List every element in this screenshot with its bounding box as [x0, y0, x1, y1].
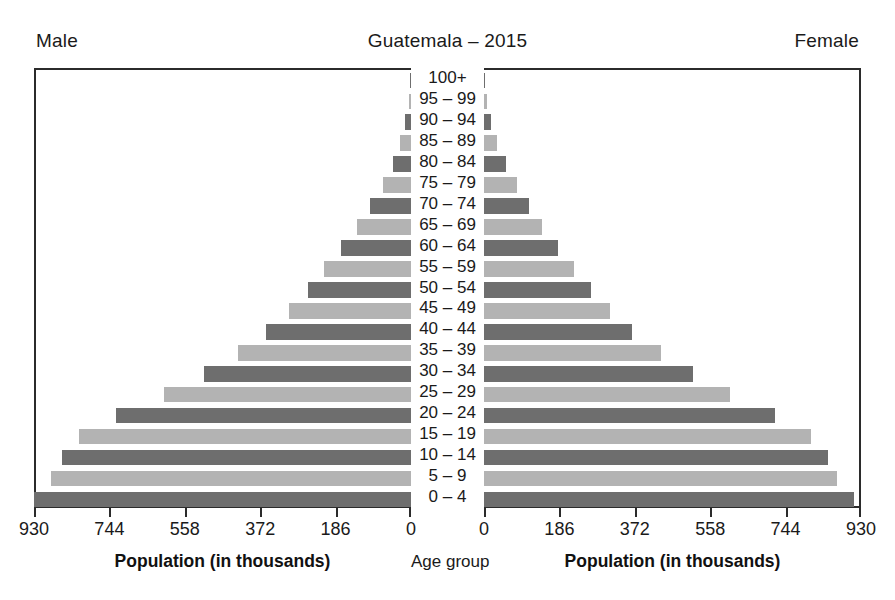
bar-female-55–59 [484, 261, 574, 277]
bar-female-90–94 [484, 114, 491, 130]
age-group-label: 65 – 69 [411, 215, 484, 236]
bar-row [484, 384, 859, 405]
axis-tick-label: 744 [94, 519, 124, 540]
axis-tick-label: 558 [695, 519, 725, 540]
bar-female-95–99 [484, 94, 487, 110]
bar-female-0–4 [484, 492, 854, 508]
axis-tick-label: 372 [620, 519, 650, 540]
bar-row [36, 91, 411, 112]
bar-female-65–69 [484, 219, 542, 235]
age-group-label: 30 – 34 [411, 361, 484, 382]
bar-male-80–84 [393, 156, 411, 172]
age-group-label: 40 – 44 [411, 319, 484, 340]
age-group-label: 50 – 54 [411, 278, 484, 299]
age-group-label: 80 – 84 [411, 152, 484, 173]
bar-row [36, 238, 411, 259]
axis-tick-label: 186 [321, 519, 351, 540]
bar-row [484, 405, 859, 426]
axis-tick [185, 508, 187, 517]
bar-female-100+ [484, 73, 485, 89]
bar-female-40–44 [484, 324, 632, 340]
bar-row [36, 489, 411, 510]
axis-tick [859, 508, 861, 517]
bar-row [484, 196, 859, 217]
population-pyramid-figure: Male Guatemala – 2015 Female 100+95 – 99… [0, 0, 895, 600]
bar-row [36, 280, 411, 301]
axis-tick [260, 508, 262, 517]
bar-female-50–54 [484, 282, 591, 298]
age-group-label: 45 – 49 [411, 298, 484, 319]
bar-row [484, 133, 859, 154]
bar-row [484, 91, 859, 112]
bar-male-5–9 [51, 471, 411, 487]
bar-row [36, 405, 411, 426]
axis-tick-label: 0 [406, 519, 416, 540]
axis-tick-label: 186 [544, 519, 574, 540]
bar-female-35–39 [484, 345, 661, 361]
bar-row [484, 238, 859, 259]
bar-row [36, 112, 411, 133]
female-x-axis: 0186372558744930 [484, 508, 861, 518]
bar-row [36, 175, 411, 196]
age-group-label: 70 – 74 [411, 194, 484, 215]
bar-female-80–84 [484, 156, 506, 172]
age-group-label: 60 – 64 [411, 236, 484, 257]
bar-row [484, 447, 859, 468]
bar-male-45–49 [289, 303, 411, 319]
bar-female-15–19 [484, 429, 811, 445]
male-x-axis: 9307445583721860 [34, 508, 411, 518]
bar-male-50–54 [308, 282, 411, 298]
right-axis-title: Population (in thousands) [484, 551, 861, 572]
bar-female-85–89 [484, 135, 497, 151]
bar-male-65–69 [357, 219, 411, 235]
bar-row [36, 321, 411, 342]
bar-row [36, 342, 411, 363]
bar-row [36, 217, 411, 238]
axis-tick-label: 558 [170, 519, 200, 540]
figure-header: Male Guatemala – 2015 Female [0, 30, 895, 56]
bar-male-0–4 [34, 492, 411, 508]
bar-row [484, 321, 859, 342]
bar-female-45–49 [484, 303, 610, 319]
center-axis-title: Age group [411, 552, 484, 572]
bar-male-10–14 [62, 450, 411, 466]
left-axis-title: Population (in thousands) [34, 551, 411, 572]
age-group-label: 100+ [411, 68, 484, 89]
bar-male-15–19 [79, 429, 411, 445]
age-group-label: 5 – 9 [411, 466, 484, 487]
bar-row [36, 300, 411, 321]
bar-row [484, 259, 859, 280]
axis-tick-label: 930 [846, 519, 876, 540]
bar-row [36, 196, 411, 217]
male-bar-rows [36, 70, 411, 506]
age-group-label-column: 100+95 – 9990 – 9485 – 8980 – 8475 – 797… [411, 68, 484, 508]
age-group-label: 75 – 79 [411, 173, 484, 194]
bar-male-25–29 [164, 387, 411, 403]
axis-tick [336, 508, 338, 517]
age-group-label: 35 – 39 [411, 340, 484, 361]
bar-row [484, 468, 859, 489]
bar-row [36, 259, 411, 280]
axis-tick-label: 0 [479, 519, 489, 540]
bar-row [36, 154, 411, 175]
bar-row [484, 489, 859, 510]
age-group-label: 55 – 59 [411, 257, 484, 278]
axis-tick [409, 508, 411, 517]
axis-tick-label: 930 [19, 519, 49, 540]
bar-row [36, 384, 411, 405]
bar-row [484, 280, 859, 301]
female-plot-panel [484, 68, 861, 508]
female-bar-rows [484, 70, 859, 506]
bar-male-30–34 [204, 366, 411, 382]
axis-tick-label: 744 [771, 519, 801, 540]
axis-tick [786, 508, 788, 517]
bar-male-20–24 [116, 408, 411, 424]
axis-tick [559, 508, 561, 517]
age-group-label: 90 – 94 [411, 110, 484, 131]
bar-male-85–89 [400, 135, 411, 151]
axis-tick [710, 508, 712, 517]
bar-male-70–74 [370, 198, 411, 214]
age-group-label: 95 – 99 [411, 89, 484, 110]
bar-male-55–59 [324, 261, 411, 277]
chart-title: Guatemala – 2015 [0, 30, 895, 52]
